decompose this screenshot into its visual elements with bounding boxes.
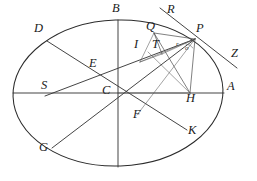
point-label-Z: Z [231, 47, 238, 60]
point-label-A: A [227, 80, 235, 93]
point-label-B: B [112, 2, 120, 15]
point-label-S: S [41, 79, 47, 92]
point-label-P: P [196, 22, 204, 35]
segment-QP [154, 33, 195, 39]
point-label-C: C [102, 84, 110, 97]
mark-label-r: r [176, 41, 179, 48]
mark-label-o: o [185, 45, 189, 52]
point-label-D: D [34, 22, 43, 35]
point-label-K: K [188, 124, 196, 137]
geometry-figure: A B C D E F G H I K P Q R S T Z r o [0, 0, 257, 181]
point-label-R: R [167, 3, 175, 16]
point-label-Q: Q [146, 20, 155, 33]
point-label-I: I [134, 38, 138, 51]
point-label-E: E [89, 57, 97, 70]
point-label-T: T [152, 38, 159, 51]
segment-tangent-RZ [160, 8, 237, 68]
point-label-G: G [39, 141, 48, 154]
point-label-F: F [133, 108, 141, 121]
point-label-H: H [186, 92, 195, 105]
segment-diameter-GP [52, 39, 195, 148]
segment-diameter-DK [47, 41, 187, 130]
